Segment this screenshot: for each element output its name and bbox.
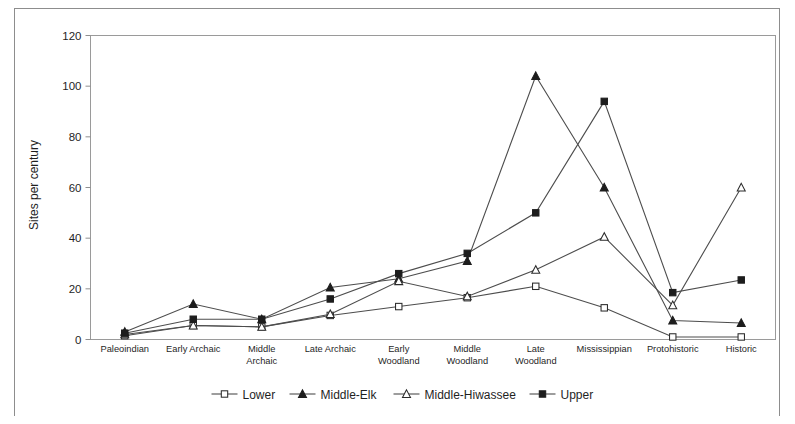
legend-label: Lower (243, 388, 276, 402)
y-tick-label: 40 (69, 232, 82, 244)
legend-label: Middle-Elk (321, 388, 378, 402)
series-layer (121, 72, 746, 340)
marker-filled-square (738, 277, 744, 283)
marker-open-triangle (737, 183, 745, 191)
x-category-label: Middle (454, 344, 481, 354)
legend-label: Middle-Hiwassee (425, 388, 517, 402)
marker-open-square (601, 305, 607, 311)
marker-filled-square (464, 250, 470, 256)
x-category-label: Early Archaic (166, 344, 221, 354)
series-line (125, 101, 742, 333)
x-category-label: Mississippian (577, 344, 632, 354)
legend-item-middle-hiwassee[interactable]: Middle-Hiwassee (394, 388, 517, 402)
series-line (125, 286, 742, 337)
y-tick-label: 120 (62, 30, 81, 42)
chart-legend: LowerMiddle-ElkMiddle-HiwasseeUpper (212, 388, 594, 402)
y-tick-label: 60 (69, 182, 82, 194)
series-middle-elk (121, 72, 746, 335)
marker-filled-triangle (463, 257, 471, 265)
marker-filled-triangle (532, 72, 540, 80)
marker-filled-square (533, 210, 539, 216)
y-tick-label: 20 (69, 283, 82, 295)
line-chart: 020406080100120 PaleoindianEarly Archaic… (0, 0, 795, 424)
marker-open-square (670, 334, 676, 340)
marker-filled-square (327, 296, 333, 302)
series-line (125, 188, 742, 335)
marker-filled-triangle (189, 300, 197, 308)
y-tick-label: 80 (69, 131, 82, 143)
marker-filled-square (259, 316, 265, 322)
marker-open-square (738, 334, 744, 340)
y-tick-label: 100 (62, 80, 81, 92)
series-upper (122, 98, 745, 336)
legend-item-upper[interactable]: Upper (530, 388, 594, 402)
series-lower (122, 283, 745, 340)
legend-label: Upper (561, 388, 594, 402)
series-middle-hiwassee (121, 183, 746, 338)
legend-item-lower[interactable]: Lower (212, 388, 276, 402)
marker-filled-square (539, 391, 545, 397)
marker-open-triangle (600, 233, 608, 241)
marker-filled-square (396, 270, 402, 276)
y-axis-ticks: 020406080100120 (62, 30, 90, 346)
marker-filled-square (122, 330, 128, 336)
x-category-label: Historic (726, 344, 757, 354)
x-category-label: Archaic (246, 356, 277, 366)
x-category-label: Woodland (446, 356, 488, 366)
marker-filled-square (190, 316, 196, 322)
x-category-label: Woodland (378, 356, 420, 366)
marker-open-triangle (532, 266, 540, 274)
marker-filled-triangle (600, 183, 608, 191)
marker-open-square (396, 303, 402, 309)
legend-item-middle-elk[interactable]: Middle-Elk (290, 388, 378, 402)
x-category-label: Early (388, 344, 410, 354)
marker-open-square (533, 283, 539, 289)
x-category-label: Late (527, 344, 545, 354)
marker-filled-square (670, 289, 676, 295)
x-category-label: Middle (248, 344, 275, 354)
x-category-label: Protohistoric (647, 344, 699, 354)
y-tick-label: 0 (75, 334, 81, 346)
x-category-label: Late Archaic (305, 344, 357, 354)
x-axis-category-labels: PaleoindianEarly ArchaicMiddleArchaicLat… (100, 344, 757, 366)
chart-figure: 020406080100120 PaleoindianEarly Archaic… (0, 0, 795, 424)
marker-open-square (221, 391, 227, 397)
y-axis-title: Sites per century (27, 140, 41, 230)
series-line (125, 76, 742, 332)
x-category-label: Woodland (515, 356, 557, 366)
marker-filled-square (601, 98, 607, 104)
x-category-label: Paleoindian (100, 344, 149, 354)
